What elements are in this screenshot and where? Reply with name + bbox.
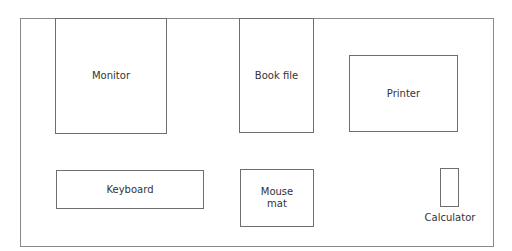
mouse-mat-label-line2: mat xyxy=(267,198,287,210)
monitor-box: Monitor xyxy=(55,18,167,134)
monitor-label: Monitor xyxy=(92,70,130,82)
keyboard-box: Keyboard xyxy=(56,170,204,209)
calculator-box xyxy=(440,168,459,207)
book-file-box: Book file xyxy=(239,18,314,133)
book-file-label: Book file xyxy=(255,70,298,82)
keyboard-label: Keyboard xyxy=(106,184,153,196)
mouse-mat-box: Mouse mat xyxy=(240,169,314,227)
printer-label: Printer xyxy=(387,88,420,100)
printer-box: Printer xyxy=(349,55,458,132)
calculator-label: Calculator xyxy=(419,212,481,224)
mouse-mat-label-line1: Mouse xyxy=(261,186,293,198)
